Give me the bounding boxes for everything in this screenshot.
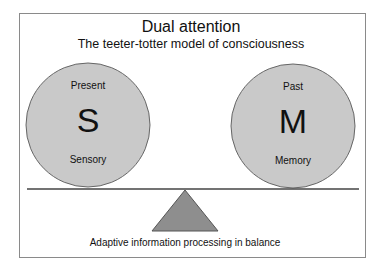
- present-label: Present: [48, 80, 128, 92]
- sensory-label: Sensory: [48, 154, 128, 166]
- memory-label: Memory: [253, 155, 333, 167]
- sensory-letter: S: [48, 102, 128, 138]
- memory-letter: M: [253, 103, 333, 139]
- past-label: Past: [253, 81, 333, 93]
- fulcrum-triangle: [152, 190, 218, 231]
- balance-caption: Adaptive information processing in balan…: [0, 237, 370, 249]
